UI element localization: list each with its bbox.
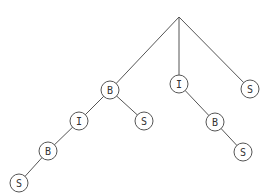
tree-edge [179, 17, 250, 89]
tree-node: S [10, 174, 28, 192]
node-label: S [16, 178, 22, 189]
tree-node: B [39, 142, 57, 160]
tree-node: I [170, 75, 188, 93]
node-label: S [240, 147, 246, 158]
node-label: S [141, 116, 147, 127]
tree-edge [110, 17, 179, 90]
tree-node: B [101, 81, 119, 99]
node-label: I [176, 79, 182, 90]
tree-node: S [135, 112, 153, 130]
tree-diagram: BISISBSBS [0, 0, 265, 195]
node-label: B [212, 117, 218, 128]
node-label: S [247, 84, 253, 95]
node-label: B [107, 85, 113, 96]
node-label: I [76, 116, 82, 127]
nodes: BISISBSBS [10, 75, 259, 192]
tree-node: S [234, 143, 252, 161]
node-label: B [45, 146, 51, 157]
tree-node: S [241, 80, 259, 98]
tree-node: I [70, 112, 88, 130]
tree-node: B [206, 113, 224, 131]
